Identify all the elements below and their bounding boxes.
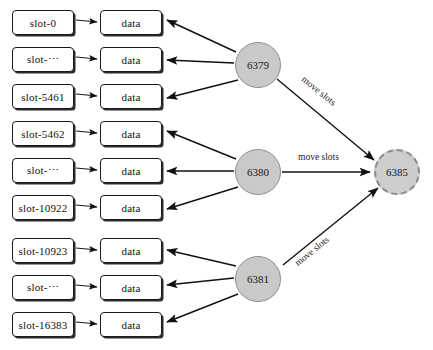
- data-box[interactable]: data: [100, 47, 162, 72]
- cluster-node-6385-target[interactable]: 6385: [374, 149, 420, 195]
- cluster-node-6379[interactable]: 6379: [235, 42, 281, 88]
- slot-box[interactable]: slot-10922: [12, 195, 74, 220]
- slot-to-data-connectors: [76, 20, 97, 324]
- edges-from-6379: [167, 20, 238, 98]
- data-box[interactable]: data: [100, 312, 162, 337]
- cluster-node-6380[interactable]: 6380: [235, 149, 281, 195]
- cluster-slot-migration-diagram: slot-0 data slot-⋯ data slot-5461 data 6…: [0, 0, 433, 350]
- data-box[interactable]: data: [100, 275, 162, 300]
- slot-box[interactable]: slot-16383: [12, 312, 74, 337]
- edge-6381-to-6385: [283, 188, 378, 265]
- data-box[interactable]: data: [100, 10, 162, 35]
- slot-box[interactable]: slot-5461: [12, 84, 74, 109]
- cluster-node-6381[interactable]: 6381: [235, 256, 281, 302]
- slot-box[interactable]: slot-0: [12, 10, 74, 35]
- slot-box[interactable]: slot-⋯: [12, 275, 74, 300]
- edge-label-move-slots-middle: move slots: [298, 152, 339, 162]
- slot-box[interactable]: slot-⋯: [12, 47, 74, 72]
- data-box[interactable]: data: [100, 158, 162, 183]
- data-box[interactable]: data: [100, 238, 162, 263]
- data-box[interactable]: data: [100, 121, 162, 146]
- data-box[interactable]: data: [100, 84, 162, 109]
- slot-box[interactable]: slot-5462: [12, 121, 74, 146]
- slot-box[interactable]: slot-⋯: [12, 158, 74, 183]
- edges-from-6381: [167, 250, 238, 322]
- slot-box[interactable]: slot-10923: [12, 238, 74, 263]
- data-box[interactable]: data: [100, 195, 162, 220]
- edges-from-6380: [167, 131, 238, 209]
